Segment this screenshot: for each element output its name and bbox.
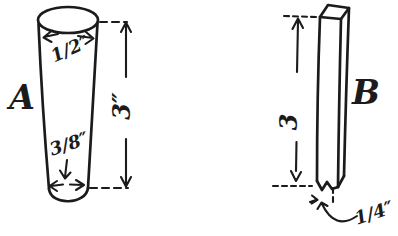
dim-b-height-group: 3 (273, 16, 316, 186)
cylinder-top-ellipse (38, 7, 98, 33)
height-arrow-down-a-icon (121, 139, 131, 187)
bar-front-left-edge (317, 17, 320, 181)
dim-b-width-group: 1/4″ (310, 188, 396, 229)
width-arrow-left-b-icon (310, 196, 318, 204)
figure-a-label: A (6, 78, 35, 117)
height-arrow-up-b-icon (293, 19, 304, 73)
height-label-a: 3″ (107, 92, 136, 120)
technical-drawing: A 1/2″ 3″ 3/8″ B (0, 0, 398, 236)
bottom-diameter-arrow-left-icon (50, 181, 64, 191)
extension-dash-top-b (284, 16, 316, 17)
bar-break-line (317, 181, 338, 190)
bottom-diameter-label: 3/8″ (47, 127, 91, 159)
width-leader-curve-icon (318, 203, 358, 222)
figure-a-group: A 1/2″ 3″ 3/8″ (6, 7, 135, 201)
dim-a-bottom-diameter-group: 3/8″ (47, 127, 91, 191)
bar-front-right-edge (338, 19, 341, 187)
width-label-b: 1/4″ (352, 196, 396, 228)
bottom-diameter-pointer-arrow-icon (60, 160, 71, 179)
bar-back-right-edge (344, 8, 349, 176)
figure-b-group: B 3 1/4″ (273, 5, 396, 229)
height-arrow-up-a-icon (121, 23, 131, 78)
dim-a-top-diameter-group: 1/2″ (44, 31, 94, 67)
height-label-b: 3 (274, 114, 303, 131)
height-arrow-down-b-icon (291, 142, 301, 181)
bottom-diameter-arrow-right-icon (70, 180, 84, 190)
top-diameter-label: 1/2″ (47, 31, 92, 66)
figure-b-label: B (351, 73, 380, 112)
bar-top-face (320, 5, 349, 19)
